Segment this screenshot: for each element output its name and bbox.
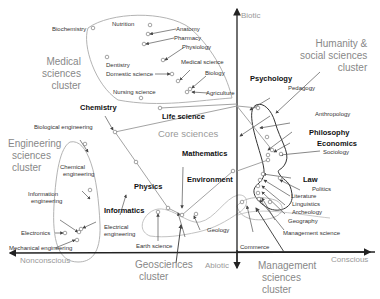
label-pharmacy: Pharmacy [174,35,201,42]
label-environment: Environment [187,175,233,184]
label-anthropology: Anthropology [315,111,350,118]
label-earth-science: Earth science [136,243,172,250]
label-politics: Politics [312,186,331,193]
label-management-science: Management science [283,230,340,237]
label-nutrition: Nutrition [112,21,134,28]
cluster-label-engineering: Engineeringsciencescluster [8,138,61,174]
label-economics: Economics [317,139,357,148]
label-electrical-engineering: Electricalengineering [104,224,135,238]
axis-label-abiotic: Abiotic [205,262,229,269]
label-electronics: Electronics [21,230,50,237]
cluster-label-management: Managementsciencescluster [258,260,316,296]
label-anatomy: Anatomy [176,26,200,33]
label-chemistry: Chemistry [80,103,117,112]
label-medical-science: Medical science [181,59,224,66]
axis-label-biotic: Biotic [241,12,261,19]
label-informatics: Informatics [104,206,144,215]
label-biology: Biology [205,70,225,77]
label-information-engineering: Informationengineering [28,191,62,205]
label-physics: Physics [134,182,162,191]
label-literature: Literature [291,193,316,200]
label-sociology: Sociology [323,149,349,156]
label-physiology: Physiology [182,44,211,51]
label-chemical-engineering: Chemicalengineering [60,164,94,178]
label-pedagogy: Pedagogy [288,85,315,92]
label-archeology: Archeology [292,209,322,216]
cluster-label-humanity: Humanity &social sciencescluster [300,38,367,74]
label-law: Law [303,175,318,184]
label-linguistics: Linguistics [292,201,320,208]
label-dentistry: Dentistry [106,62,130,69]
label-biological-engineering: Biological engineering [34,124,93,131]
label-commerce: Commerce [240,244,269,251]
axis-label-conscious: Conscious [331,256,368,263]
label-domestic-science: Domestic science [106,71,153,78]
label-psychology: Psychology [250,74,292,83]
cluster-label-medical: Medicalsciencescluster [42,56,81,92]
label-life-science: Life science [162,112,205,121]
cluster-label-core: Core sciences [158,130,218,137]
label-nursing-science: Nursing science [113,89,156,96]
label-mathematics: Mathematics [182,149,227,158]
label-biochemistry: Biochemistry [52,26,86,33]
label-geography: Geography [288,218,318,225]
axis-label-nonconscious: Nonconscious [20,257,70,264]
label-philosophy: Philosophy [309,128,349,137]
label-agriculture: Agriculture [206,90,235,97]
label-mechanical-engineering: Mechanical engineering [9,245,72,252]
cluster-label-geosciences: Geosciencescluster [135,259,193,283]
label-geology: Geology [207,227,229,234]
